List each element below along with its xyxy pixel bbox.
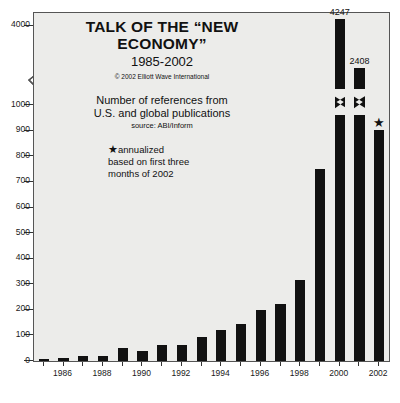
bar-star-icon-2002: ★ — [362, 116, 396, 129]
chart-description: Number of references from U.S. and globa… — [46, 94, 278, 122]
chart-source: source: ABI/Inform — [46, 122, 278, 130]
bar-1986 — [58, 358, 68, 361]
chart-text-block: TALK OF THE “NEW ECONOMY” 1985-2002 © 20… — [46, 18, 278, 181]
bar-1988 — [98, 356, 108, 361]
bar-value-2000: 4247 — [323, 8, 357, 17]
x-axis-tick — [181, 362, 182, 366]
x-axis-label: 1994 — [204, 369, 236, 378]
x-axis-tick — [358, 362, 359, 366]
bar-1996 — [256, 310, 266, 361]
bar-1989 — [118, 348, 128, 361]
description-line-2: U.S. and global publications — [46, 107, 278, 121]
chart-note: ★annualized based on first three months … — [46, 142, 278, 181]
chart-container: 010020030040050060070080090010004000 424… — [0, 0, 400, 403]
note-line-2: based on first three — [108, 156, 278, 168]
y-axis-label: 400 — [6, 253, 30, 262]
x-axis-tick — [280, 362, 281, 366]
y-axis-label: 600 — [6, 202, 30, 211]
bar-1990 — [137, 351, 147, 361]
x-axis-label: 1998 — [283, 369, 315, 378]
y-axis-label: 0 — [6, 356, 30, 365]
y-axis-label: 900 — [6, 125, 30, 134]
x-axis-tick — [43, 362, 44, 366]
y-axis-label: 500 — [6, 228, 30, 237]
y-axis-label: 300 — [6, 279, 30, 288]
x-axis-tick — [299, 362, 300, 366]
x-axis-tick — [82, 362, 83, 366]
bar-value-2001: 2408 — [342, 57, 376, 66]
x-axis-tick — [63, 362, 64, 366]
bar-1999 — [315, 169, 325, 361]
bar-2000 — [335, 19, 345, 361]
x-axis-label: 2000 — [323, 369, 355, 378]
x-axis-tick — [161, 362, 162, 366]
y-axis-label: 800 — [6, 151, 30, 160]
bar-2001 — [354, 68, 364, 361]
x-axis-label: 1992 — [165, 369, 197, 378]
x-axis-label: 2002 — [362, 369, 394, 378]
chart-copyright: © 2002 Elliott Wave International — [46, 74, 278, 81]
x-axis-tick — [378, 362, 379, 366]
x-axis-tick — [122, 362, 123, 366]
bar-1991 — [157, 345, 167, 361]
y-axis-label: 200 — [6, 304, 30, 313]
x-axis-label: 1986 — [47, 369, 79, 378]
x-axis-label: 1988 — [86, 369, 118, 378]
bar-1987 — [78, 356, 88, 361]
bar-1997 — [275, 304, 285, 361]
x-axis-tick — [260, 362, 261, 366]
x-axis-tick — [240, 362, 241, 366]
x-axis-tick — [319, 362, 320, 366]
x-axis: 198619881990199219941996199820002002 — [33, 366, 390, 382]
x-axis-tick — [339, 362, 340, 366]
x-axis-label: 1990 — [125, 369, 157, 378]
x-axis-tick — [102, 362, 103, 366]
x-axis-label: 1996 — [244, 369, 276, 378]
bar-1985 — [39, 359, 49, 361]
y-axis-label: 700 — [6, 176, 30, 185]
note-line-1: ★annualized — [108, 142, 278, 156]
bar-1994 — [216, 330, 226, 361]
y-axis-label: 100 — [6, 330, 30, 339]
x-axis-tick — [141, 362, 142, 366]
bar-1995 — [236, 324, 246, 361]
x-axis-tick — [201, 362, 202, 366]
chart-subtitle: 1985-2002 — [46, 55, 278, 70]
x-axis-tick — [220, 362, 221, 366]
note-star-icon: ★ — [108, 143, 118, 155]
bar-2002 — [374, 130, 384, 361]
bar-1993 — [197, 337, 207, 361]
bar-1998 — [295, 280, 305, 361]
note-line-1-text: annualized — [118, 144, 164, 155]
description-line-1: Number of references from — [46, 94, 278, 108]
note-line-3: months of 2002 — [108, 168, 278, 180]
chart-title: TALK OF THE “NEW ECONOMY” — [46, 18, 278, 52]
bar-1992 — [177, 345, 187, 361]
y-axis-label: 4000 — [6, 20, 30, 29]
